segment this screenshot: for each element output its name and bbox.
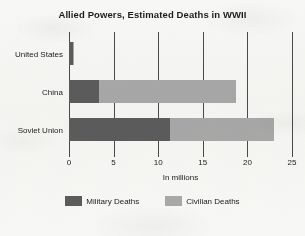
x-tick-mark xyxy=(114,151,115,157)
bar-chart: Allied Powers, Estimated Deaths in WWII … xyxy=(0,0,305,236)
legend-item: Military Deaths xyxy=(65,196,139,206)
category-label: Soviet Union xyxy=(18,125,63,134)
x-tick-label: 15 xyxy=(198,158,207,167)
chart-legend: Military DeathsCivilian Deaths xyxy=(0,196,305,206)
x-axis-title: In millions xyxy=(69,173,292,182)
bar-row: China xyxy=(69,80,236,103)
gridline xyxy=(292,32,293,151)
x-tick-mark xyxy=(292,151,293,157)
x-axis: 0510152025 xyxy=(69,151,292,175)
x-tick-label: 5 xyxy=(111,158,115,167)
x-tick-label: 0 xyxy=(67,158,71,167)
x-tick-mark xyxy=(203,151,204,157)
x-tick-mark xyxy=(247,151,248,157)
category-label: China xyxy=(42,87,63,96)
bar-segment-military-deaths xyxy=(69,80,99,103)
legend-label: Military Deaths xyxy=(86,197,139,206)
x-tick-mark xyxy=(69,151,70,157)
bar-row: United States xyxy=(69,42,73,65)
bar-segment-civilian-deaths xyxy=(99,80,235,103)
legend-item: Civilian Deaths xyxy=(165,196,239,206)
x-tick-label: 10 xyxy=(154,158,163,167)
bar-segment-civilian-deaths xyxy=(73,42,74,65)
chart-title: Allied Powers, Estimated Deaths in WWII xyxy=(0,9,305,20)
legend-swatch xyxy=(165,196,182,206)
legend-swatch xyxy=(65,196,82,206)
bar-row: Soviet Union xyxy=(69,118,274,141)
x-tick-label: 25 xyxy=(288,158,297,167)
plot-area: United StatesChinaSoviet Union xyxy=(69,32,292,151)
bar-segment-civilian-deaths xyxy=(170,118,274,141)
x-tick-label: 20 xyxy=(243,158,252,167)
category-label: United States xyxy=(15,49,63,58)
bar-segment-military-deaths xyxy=(69,118,170,141)
x-tick-mark xyxy=(158,151,159,157)
legend-label: Civilian Deaths xyxy=(186,197,239,206)
